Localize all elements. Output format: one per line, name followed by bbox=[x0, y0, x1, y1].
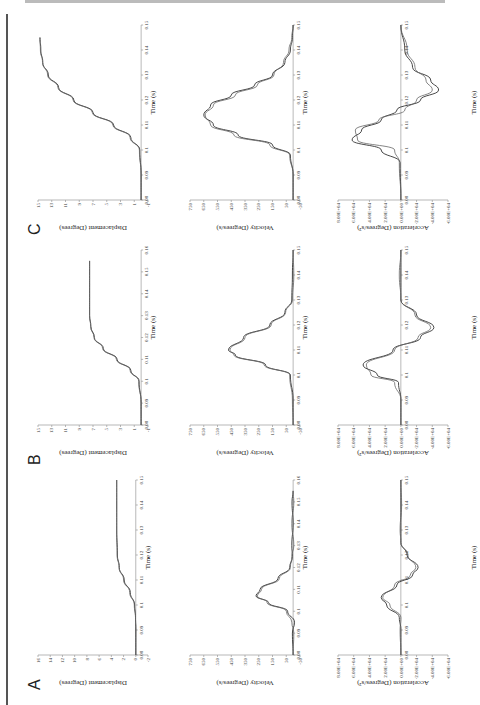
y-tick-label: 6 bbox=[97, 658, 102, 661]
y-tick-label: 0.00E+00 bbox=[399, 203, 404, 223]
x-tick-label: 0.11 bbox=[296, 585, 301, 594]
y-tick-label: -4.00E+04 bbox=[430, 658, 435, 680]
x-tick-label: 0.13 bbox=[404, 525, 409, 534]
y-tick-label: 5 bbox=[104, 203, 109, 206]
y-tick-label: -4.00E+04 bbox=[430, 203, 435, 225]
x-tick-label: 0.09 bbox=[404, 625, 409, 634]
series-line-1 bbox=[90, 261, 142, 425]
x-tick-label: 0.15 bbox=[296, 245, 301, 254]
y-tick-label: 6.00E+04 bbox=[351, 428, 356, 448]
series-line-1 bbox=[352, 25, 439, 200]
y-axis-label: Acceleration (Degrees/s²) bbox=[356, 224, 429, 232]
y-tick-label: 650 bbox=[201, 428, 206, 436]
y-tick-label: -4.00E+04 bbox=[430, 428, 435, 450]
x-tick-label: 0.1 bbox=[404, 371, 409, 378]
x-tick-label: 0.16 bbox=[296, 475, 301, 484]
y-tick-label: 13 bbox=[49, 428, 54, 434]
x-tick-label: 0.08 bbox=[144, 420, 149, 429]
y-tick-label: 350 bbox=[243, 658, 248, 666]
panel-label-a: A bbox=[26, 679, 43, 690]
x-tick-label: 0.14 bbox=[404, 270, 409, 279]
y-tick-label: 11 bbox=[63, 428, 68, 433]
series-line-2 bbox=[366, 250, 430, 425]
y-tick-label: -2.00E+04 bbox=[414, 203, 419, 225]
x-axis-label: Time (s) bbox=[470, 315, 478, 339]
series-line-1 bbox=[229, 250, 294, 425]
y-tick-label: 2.00E+04 bbox=[383, 428, 388, 448]
y-tick-label: 8.00E+04 bbox=[336, 658, 341, 678]
y-tick-label: 350 bbox=[243, 428, 248, 436]
x-axis-label: Time (s) bbox=[144, 545, 152, 569]
y-tick-label: 750 bbox=[188, 428, 193, 436]
x-tick-label: 0.14 bbox=[139, 500, 144, 509]
x-tick-label: 0.11 bbox=[404, 120, 409, 129]
y-tick-label: 450 bbox=[229, 203, 234, 211]
y-tick-label: 750 bbox=[188, 203, 193, 211]
x-tick-label: 0.09 bbox=[404, 395, 409, 404]
y-tick-label: -2.00E+04 bbox=[414, 658, 419, 680]
y-tick-label: 10 bbox=[72, 658, 77, 664]
y-tick-label: 150 bbox=[270, 658, 275, 666]
x-tick-label: 0.1 bbox=[404, 601, 409, 608]
x-tick-label: 0.09 bbox=[296, 628, 301, 637]
x-tick-label: 0.09 bbox=[144, 170, 149, 179]
y-tick-label: 250 bbox=[256, 658, 261, 666]
y-tick-label: 5 bbox=[104, 428, 109, 431]
panel-label-b: B bbox=[26, 454, 43, 465]
y-tick-label: 16 bbox=[36, 658, 41, 664]
x-tick-label: 0.14 bbox=[144, 45, 149, 54]
x-tick-label: 0.08 bbox=[296, 650, 301, 659]
y-tick-label: 2 bbox=[121, 658, 126, 661]
y-tick-label: 50 bbox=[284, 428, 289, 434]
y-tick-label: -6.00E+04 bbox=[446, 428, 451, 450]
x-tick-label: 0.1 bbox=[296, 146, 301, 153]
y-tick-label: 650 bbox=[201, 658, 206, 666]
series-line-2 bbox=[117, 480, 136, 655]
y-tick-label: 2.00E+04 bbox=[383, 203, 388, 223]
y-tick-label: 150 bbox=[270, 203, 275, 211]
series-line-1 bbox=[381, 480, 418, 655]
y-axis-label: Displacement (Degrees) bbox=[58, 679, 126, 687]
x-tick-label: 0.12 bbox=[404, 320, 409, 329]
x-tick-label: 0.13 bbox=[296, 295, 301, 304]
x-tick-label: 0.13 bbox=[296, 70, 301, 79]
y-tick-label: 15 bbox=[36, 203, 41, 209]
y-tick-label: 0 bbox=[133, 658, 138, 661]
y-tick-label: 2.00E+04 bbox=[383, 658, 388, 678]
x-tick-label: 0.14 bbox=[296, 519, 301, 528]
x-tick-label: 0.11 bbox=[296, 345, 301, 354]
x-tick-label: 0.11 bbox=[144, 120, 149, 129]
x-tick-label: 0.12 bbox=[404, 95, 409, 104]
y-tick-label: -2 bbox=[146, 658, 151, 663]
y-tick-label: 3 bbox=[118, 428, 123, 431]
x-tick-label: 0.08 bbox=[139, 650, 144, 659]
x-axis-label: Time (s) bbox=[149, 90, 157, 114]
y-tick-label: 8.00E+04 bbox=[336, 428, 341, 448]
x-tick-label: 0.13 bbox=[139, 525, 144, 534]
x-tick-label: 0.08 bbox=[144, 195, 149, 204]
y-axis-label: Velocity (Degrees/s) bbox=[216, 224, 274, 232]
x-tick-label: 0.1 bbox=[296, 371, 301, 378]
x-tick-label: 0.15 bbox=[296, 20, 301, 29]
y-tick-label: 14 bbox=[48, 658, 53, 664]
x-tick-label: 0.1 bbox=[404, 146, 409, 153]
x-tick-label: 0.15 bbox=[144, 267, 149, 276]
figure-canvas: ABC-202468101214160.080.090.10.110.120.1… bbox=[0, 0, 480, 705]
x-tick-label: 0.08 bbox=[404, 650, 409, 659]
x-tick-label: 0.13 bbox=[144, 70, 149, 79]
y-axis-label: Displacement (Degrees) bbox=[58, 449, 126, 457]
x-tick-label: 0.11 bbox=[404, 345, 409, 354]
y-tick-label: 4.00E+04 bbox=[367, 203, 372, 223]
y-tick-label: -2.00E+04 bbox=[414, 428, 419, 450]
x-tick-label: 0.09 bbox=[296, 395, 301, 404]
y-tick-label: 250 bbox=[256, 428, 261, 436]
x-tick-label: 0.14 bbox=[404, 500, 409, 509]
x-tick-label: 0.08 bbox=[404, 195, 409, 204]
x-tick-label: 0.11 bbox=[144, 355, 149, 364]
y-tick-label: 1 bbox=[132, 203, 137, 206]
y-tick-label: -6.00E+04 bbox=[446, 658, 451, 680]
y-tick-label: 4.00E+04 bbox=[367, 428, 372, 448]
series-line-2 bbox=[205, 25, 293, 200]
y-tick-label: 450 bbox=[229, 428, 234, 436]
series-line-1 bbox=[256, 491, 295, 655]
